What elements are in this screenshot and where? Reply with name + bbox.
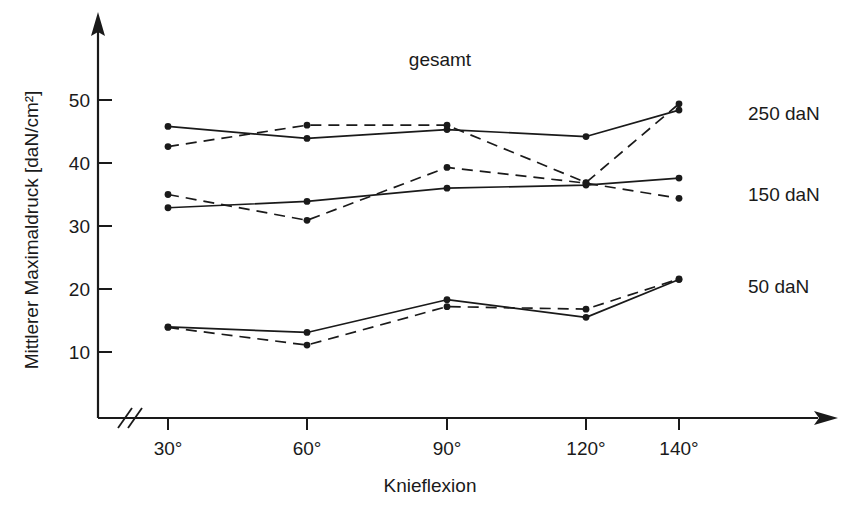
- data-point: [676, 195, 683, 202]
- x-axis-title: Knieflexion: [384, 475, 477, 496]
- data-point: [676, 100, 683, 107]
- data-point: [165, 143, 172, 150]
- x-axis-tick-labels: 30° 60° 90° 120° 140°: [154, 438, 699, 459]
- x-tick-label-60: 60°: [293, 438, 322, 459]
- series-label-150-dan: 150 daN: [748, 184, 820, 205]
- data-point: [444, 122, 451, 129]
- data-point: [304, 198, 311, 205]
- data-point: [444, 164, 451, 171]
- series-line-250-dashed: [168, 104, 679, 183]
- x-axis: [98, 408, 838, 428]
- data-point: [165, 324, 172, 331]
- y-axis-title: Mittlerer Maximaldruck [daN/cm²]: [21, 91, 42, 370]
- data-point: [304, 217, 311, 224]
- series-group-50-dan: [165, 276, 683, 349]
- data-point: [165, 204, 172, 211]
- series-line-50-dashed: [168, 279, 679, 345]
- data-point: [444, 303, 451, 310]
- data-point: [583, 133, 590, 140]
- y-tick-label-50: 50: [69, 90, 90, 111]
- data-point: [304, 342, 311, 349]
- plot-title: gesamt: [409, 49, 472, 70]
- series-group-250-dan: [165, 100, 683, 186]
- x-axis-ticks: [168, 418, 679, 430]
- data-point: [165, 123, 172, 130]
- data-point: [583, 180, 590, 187]
- data-point: [583, 306, 590, 313]
- data-point: [444, 185, 451, 192]
- chart-figure: 50 40 30 20 10 30° 60° 90° 120° 140° Kni…: [0, 0, 860, 507]
- y-tick-label-30: 30: [69, 216, 90, 237]
- series-label-250-dan: 250 daN: [748, 103, 820, 124]
- series-line-150-dashed: [168, 167, 679, 220]
- x-tick-label-140: 140°: [659, 438, 698, 459]
- data-point: [304, 329, 311, 336]
- y-tick-label-40: 40: [69, 153, 90, 174]
- x-tick-label-30: 30°: [154, 438, 183, 459]
- chart-canvas: 50 40 30 20 10 30° 60° 90° 120° 140° Kni…: [0, 0, 860, 507]
- y-tick-label-10: 10: [69, 342, 90, 363]
- data-point: [304, 122, 311, 129]
- data-point: [444, 296, 451, 303]
- y-tick-label-20: 20: [69, 279, 90, 300]
- data-point: [676, 107, 683, 114]
- y-axis: [91, 12, 105, 418]
- series-line-50-solid: [168, 280, 679, 333]
- y-axis-ticks: [98, 100, 112, 352]
- series-label-50-dan: 50 daN: [748, 276, 809, 297]
- series-group-150-dan: [165, 164, 683, 224]
- data-point: [583, 314, 590, 321]
- data-point: [165, 191, 172, 198]
- data-point: [676, 276, 683, 283]
- data-series-layer: [165, 100, 683, 348]
- x-tick-label-90: 90°: [433, 438, 462, 459]
- series-line-150-solid: [168, 178, 679, 208]
- x-tick-label-120: 120°: [566, 438, 605, 459]
- data-point: [676, 175, 683, 182]
- data-point: [304, 135, 311, 142]
- y-axis-tick-labels: 50 40 30 20 10: [69, 90, 90, 363]
